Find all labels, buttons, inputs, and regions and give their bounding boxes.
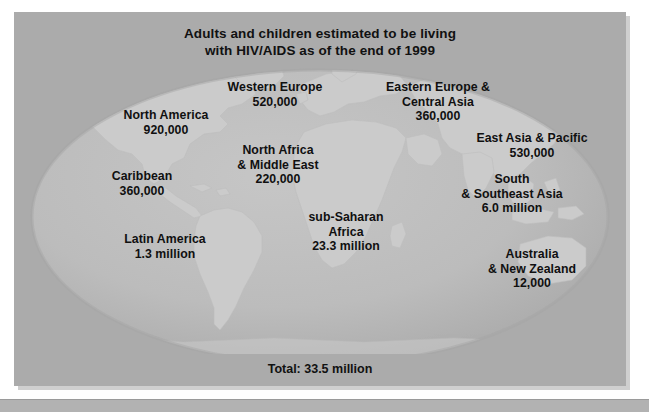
region-label-north-africa-middle-east: North Africa& Middle East220,000 — [237, 143, 318, 187]
region-label-australia-new-zealand: Australia& New Zealand12,000 — [488, 247, 576, 291]
map-poster-panel: Adults and children estimated to be livi… — [14, 12, 626, 386]
region-name-eastern-europe-central-asia-line-1: Eastern Europe & — [386, 80, 490, 95]
region-name-sub-saharan-africa-line-1: sub-Saharan — [308, 210, 383, 225]
region-name-north-africa-middle-east-line-2: & Middle East — [237, 158, 318, 173]
figure-title: Adults and children estimated to be livi… — [14, 25, 626, 59]
total-label: Total: 33.5 million — [14, 362, 626, 376]
region-value-east-asia-pacific: 530,000 — [476, 146, 587, 161]
region-label-north-america: North America920,000 — [124, 108, 209, 138]
region-label-latin-america: Latin America1.3 million — [124, 232, 206, 262]
region-name-australia-new-zealand-line-1: Australia — [488, 247, 576, 262]
hiv-aids-world-map-figure: Adults and children estimated to be livi… — [0, 0, 649, 412]
region-name-western-europe-line-1: Western Europe — [228, 80, 323, 95]
region-name-north-africa-middle-east-line-1: North Africa — [237, 143, 318, 158]
page-bottom-strip — [0, 400, 649, 412]
region-label-western-europe: Western Europe520,000 — [228, 80, 323, 110]
region-name-caribbean-line-1: Caribbean — [112, 169, 173, 184]
figure-title-line-1: Adults and children estimated to be livi… — [14, 25, 626, 42]
region-name-south-southeast-asia-line-1: South — [461, 172, 562, 187]
region-label-south-southeast-asia: South& Southeast Asia6.0 million — [461, 172, 562, 216]
region-value-south-southeast-asia: 6.0 million — [461, 201, 562, 216]
region-name-eastern-europe-central-asia-line-2: Central Asia — [386, 95, 490, 110]
region-value-western-europe: 520,000 — [228, 95, 323, 110]
region-value-north-america: 920,000 — [124, 123, 209, 138]
region-label-eastern-europe-central-asia: Eastern Europe &Central Asia360,000 — [386, 80, 490, 124]
region-label-caribbean: Caribbean360,000 — [112, 169, 173, 199]
region-name-north-america-line-1: North America — [124, 108, 209, 123]
figure-title-line-2: with HIV/AIDS as of the end of 1999 — [14, 42, 626, 59]
region-name-latin-america-line-1: Latin America — [124, 232, 206, 247]
region-name-australia-new-zealand-line-2: & New Zealand — [488, 262, 576, 277]
landmass-new-zealand — [598, 274, 614, 294]
region-label-sub-saharan-africa: sub-SaharanAfrica23.3 million — [308, 210, 383, 254]
region-value-north-africa-middle-east: 220,000 — [237, 172, 318, 187]
region-value-caribbean: 360,000 — [112, 184, 173, 199]
region-name-south-southeast-asia-line-2: & Southeast Asia — [461, 187, 562, 202]
region-label-east-asia-pacific: East Asia & Pacific530,000 — [476, 131, 587, 161]
region-value-australia-new-zealand: 12,000 — [488, 276, 576, 291]
total-band: Total: 33.5 million — [14, 354, 626, 386]
region-name-sub-saharan-africa-line-2: Africa — [308, 225, 383, 240]
region-value-sub-saharan-africa: 23.3 million — [308, 239, 383, 254]
region-name-east-asia-pacific-line-1: East Asia & Pacific — [476, 131, 587, 146]
region-value-eastern-europe-central-asia: 360,000 — [386, 109, 490, 124]
region-value-latin-america: 1.3 million — [124, 247, 206, 262]
